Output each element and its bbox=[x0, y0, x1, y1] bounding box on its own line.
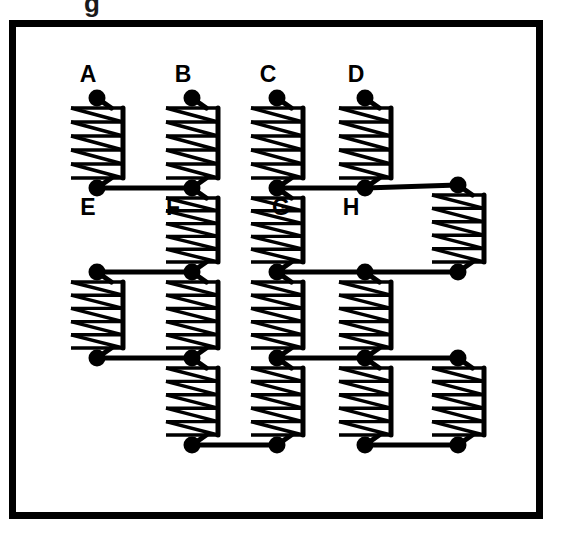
mass-node-D bbox=[357, 90, 374, 107]
node-label-C: C bbox=[260, 61, 277, 87]
mass-node bbox=[450, 264, 467, 281]
mass-node bbox=[357, 350, 374, 367]
spring-S-W bbox=[432, 358, 484, 445]
spring-C-G bbox=[251, 98, 303, 188]
mass-node bbox=[450, 350, 467, 367]
mass-node-C bbox=[269, 90, 286, 107]
mass-node bbox=[89, 350, 106, 367]
mass-node bbox=[357, 437, 374, 454]
spring-I-N bbox=[432, 185, 484, 272]
lattice-diagram: g ABCDEFGH bbox=[0, 0, 562, 542]
spring-L-Q bbox=[251, 272, 303, 358]
mass-node bbox=[269, 350, 286, 367]
node-label-F: F bbox=[166, 194, 180, 220]
mass-node bbox=[269, 264, 286, 281]
spring-P-T bbox=[166, 358, 218, 445]
mass-node bbox=[184, 350, 201, 367]
node-label-A: A bbox=[80, 61, 97, 87]
mass-node-F bbox=[184, 180, 201, 197]
spring-R-V bbox=[339, 358, 391, 445]
mass-node bbox=[184, 264, 201, 281]
connector-H-I bbox=[365, 185, 458, 188]
mass-node bbox=[357, 264, 374, 281]
mass-node bbox=[450, 177, 467, 194]
mass-node bbox=[450, 437, 467, 454]
spring-J-O bbox=[71, 272, 123, 358]
spring-D-H bbox=[339, 98, 391, 188]
spring-B-F bbox=[166, 98, 218, 188]
mass-node-B bbox=[184, 90, 201, 107]
spring-Q-U bbox=[251, 358, 303, 445]
mass-node-A bbox=[89, 90, 106, 107]
spring-M-R bbox=[339, 272, 391, 358]
mass-node bbox=[89, 264, 106, 281]
node-label-D: D bbox=[348, 61, 365, 87]
node-label-E: E bbox=[80, 194, 95, 220]
node-label-B: B bbox=[175, 61, 192, 87]
node-label-H: H bbox=[343, 194, 360, 220]
spring-K-P bbox=[166, 272, 218, 358]
spring-A-E bbox=[71, 98, 123, 188]
node-label-G: G bbox=[272, 194, 290, 220]
lattice-figure: g ABCDEFGH bbox=[0, 0, 562, 542]
cropped-caption-glyph: g bbox=[84, 0, 100, 18]
mass-node bbox=[269, 437, 286, 454]
mass-node bbox=[184, 437, 201, 454]
